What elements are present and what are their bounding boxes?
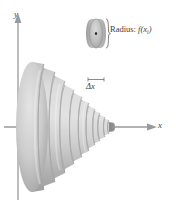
x-axis-label: x: [158, 121, 162, 130]
thickness-annotation: Δx: [86, 82, 95, 91]
representative-disk: [86, 19, 110, 82]
radius-function-close-paren: ): [149, 24, 152, 34]
radius-function-text: f(x: [138, 24, 147, 34]
y-axis-label: y: [14, 10, 18, 19]
solid-right-cap-shadow: [109, 122, 112, 132]
radius-annotation-text: Radius:: [110, 24, 136, 34]
radius-annotation: Radius: f(xi): [110, 25, 152, 35]
solid-of-revolution: [16, 62, 115, 192]
solid-left-face: [16, 62, 48, 192]
disk-method-figure: y x Radius: f(xi) Δx: [0, 0, 176, 216]
disk-center-dot: [95, 32, 97, 35]
